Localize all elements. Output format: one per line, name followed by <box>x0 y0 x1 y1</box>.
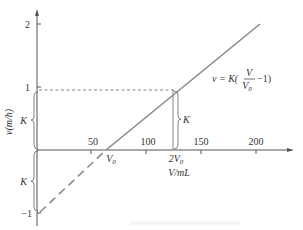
x-tick-label-100: 100 <box>141 136 156 147</box>
x-axis-label: V/mL <box>168 167 190 178</box>
two-v0-label: 2V0 <box>169 153 184 166</box>
x-tick-label-150: 150 <box>194 136 209 147</box>
bracket-k-right <box>174 91 181 149</box>
equation-label: v = K( V V0 −1) <box>212 67 271 93</box>
x-tick-label-200: 200 <box>249 136 264 147</box>
series-line-dashed <box>40 150 106 212</box>
svg-text:V: V <box>246 67 254 78</box>
x-axis-arrow-icon <box>287 148 294 152</box>
svg-text:v = K(: v = K( <box>212 73 239 85</box>
figure-caption-faint <box>130 221 240 225</box>
chart: 2 1 −1 50 100 150 200 V0 2V0 V/mL v(m/h)… <box>0 0 303 230</box>
y-tick-label-1: 1 <box>25 82 30 93</box>
k-label-right: K <box>182 114 191 125</box>
svg-text:−1): −1) <box>257 73 271 85</box>
series-line-solid <box>106 24 260 150</box>
x-tick-label-50: 50 <box>88 136 98 147</box>
k-label-top: K <box>19 115 28 126</box>
svg-text:V0: V0 <box>242 80 252 93</box>
y-tick-label-2: 2 <box>25 19 30 30</box>
y-axis-arrow-icon <box>35 9 39 16</box>
v0-label: V0 <box>106 153 116 166</box>
k-label-bottom: K <box>19 176 28 187</box>
y-axis-label: v(m/h) <box>3 108 15 135</box>
y-tick-label-m1: −1 <box>21 208 32 219</box>
